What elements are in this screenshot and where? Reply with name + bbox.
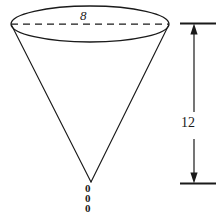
apex-annotation-char-3: 0 xyxy=(85,203,91,213)
diameter-label: 8 xyxy=(80,9,87,22)
apex-annotation: 0 0 0 xyxy=(85,183,91,213)
cone-drawing xyxy=(0,0,221,217)
cone-figure: 8 12 0 0 0 xyxy=(0,0,221,217)
height-label: 12 xyxy=(181,116,195,130)
